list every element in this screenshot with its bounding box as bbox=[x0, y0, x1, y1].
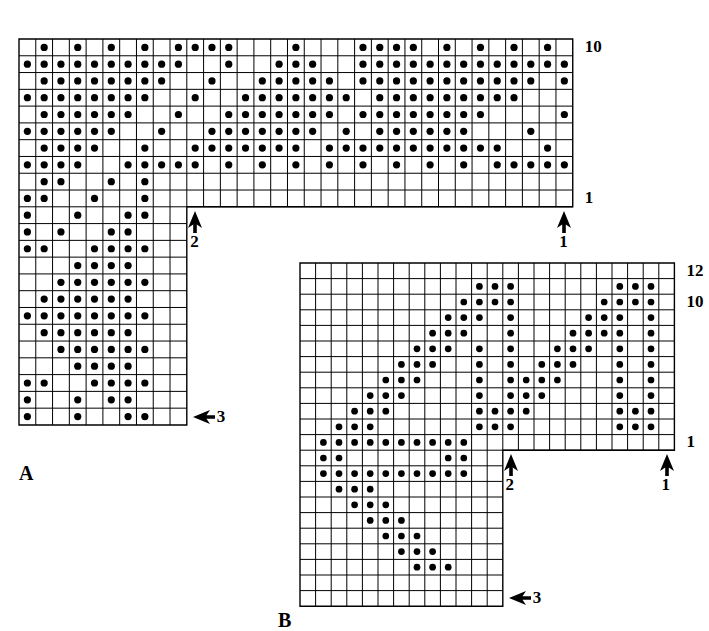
pattern-dot bbox=[225, 161, 232, 168]
pattern-dot bbox=[74, 363, 81, 370]
pattern-dot bbox=[429, 330, 436, 337]
pattern-dot bbox=[460, 77, 467, 84]
pattern-dot bbox=[124, 77, 131, 84]
pattern-dot bbox=[376, 61, 383, 68]
pattern-dot bbox=[192, 144, 199, 151]
pattern-dot bbox=[393, 161, 400, 168]
pattern-dot bbox=[141, 94, 148, 101]
pattern-dot bbox=[494, 144, 501, 151]
pattern-dot bbox=[292, 144, 299, 151]
pattern-dot bbox=[460, 128, 467, 135]
pattern-dot bbox=[24, 161, 31, 168]
pattern-dot bbox=[648, 283, 655, 290]
pattern-dot bbox=[445, 455, 452, 462]
pattern-dot bbox=[275, 77, 282, 84]
arrow-left-icon bbox=[193, 407, 215, 427]
pattern-dot bbox=[367, 470, 374, 477]
pattern-dot bbox=[398, 517, 405, 524]
pattern-dot bbox=[561, 61, 568, 68]
pattern-dot bbox=[616, 299, 623, 306]
pattern-dot bbox=[336, 455, 343, 462]
pattern-dot bbox=[367, 423, 374, 430]
pattern-dot bbox=[359, 144, 366, 151]
pattern-dot bbox=[74, 94, 81, 101]
pattern-dot bbox=[141, 379, 148, 386]
pattern-dot bbox=[632, 283, 639, 290]
pattern-dot bbox=[57, 295, 64, 302]
arrow-up-icon bbox=[501, 454, 521, 476]
marker-number-2: 2 bbox=[190, 233, 199, 250]
pattern-dot bbox=[477, 44, 484, 51]
pattern-dot bbox=[141, 77, 148, 84]
pattern-dot bbox=[24, 61, 31, 68]
pattern-dot bbox=[510, 61, 517, 68]
pattern-dot bbox=[510, 94, 517, 101]
pattern-dot bbox=[41, 94, 48, 101]
pattern-dot bbox=[398, 439, 405, 446]
pattern-dot bbox=[376, 94, 383, 101]
pattern-dot bbox=[91, 379, 98, 386]
pattern-dot bbox=[460, 299, 467, 306]
pattern-dot bbox=[24, 128, 31, 135]
pattern-dot bbox=[292, 94, 299, 101]
pattern-dot bbox=[141, 312, 148, 319]
pattern-dot bbox=[398, 470, 405, 477]
pattern-dot bbox=[359, 44, 366, 51]
pattern-dot bbox=[492, 423, 499, 430]
pattern-dot bbox=[460, 455, 467, 462]
pattern-dot bbox=[292, 128, 299, 135]
pattern-dot bbox=[414, 470, 421, 477]
pattern-dot bbox=[494, 94, 501, 101]
pattern-dot bbox=[648, 299, 655, 306]
pattern-dot bbox=[476, 423, 483, 430]
pattern-dot bbox=[57, 312, 64, 319]
pattern-dot bbox=[507, 345, 514, 352]
pattern-dot bbox=[108, 295, 115, 302]
pattern-dot bbox=[398, 548, 405, 555]
pattern-dot bbox=[24, 212, 31, 219]
pattern-dot bbox=[376, 77, 383, 84]
pattern-dot bbox=[275, 128, 282, 135]
pattern-dot bbox=[74, 77, 81, 84]
pattern-dot bbox=[24, 413, 31, 420]
chart-label-a: A bbox=[19, 463, 33, 483]
pattern-dot bbox=[382, 439, 389, 446]
pattern-dot bbox=[544, 161, 551, 168]
arrow-up-icon bbox=[554, 211, 574, 233]
pattern-dot bbox=[141, 195, 148, 202]
pattern-dot bbox=[158, 161, 165, 168]
pattern-dot bbox=[427, 77, 434, 84]
pattern-dot bbox=[429, 564, 436, 571]
pattern-dot bbox=[382, 533, 389, 540]
pattern-dot bbox=[443, 44, 450, 51]
pattern-dot bbox=[445, 470, 452, 477]
pattern-dot bbox=[443, 77, 450, 84]
pattern-dot bbox=[382, 377, 389, 384]
pattern-dot bbox=[414, 361, 421, 368]
pattern-dot bbox=[292, 44, 299, 51]
chart-label-b: B bbox=[278, 610, 291, 630]
pattern-dot bbox=[124, 329, 131, 336]
pattern-dot bbox=[320, 439, 327, 446]
pattern-dot bbox=[561, 77, 568, 84]
pattern-dot bbox=[41, 329, 48, 336]
pattern-dot bbox=[427, 161, 434, 168]
pattern-dot bbox=[398, 533, 405, 540]
pattern-dot bbox=[108, 346, 115, 353]
pattern-dot bbox=[24, 195, 31, 202]
pattern-dot bbox=[91, 312, 98, 319]
pattern-dot bbox=[124, 228, 131, 235]
pattern-dot bbox=[507, 423, 514, 430]
pattern-dot bbox=[91, 128, 98, 135]
pattern-dot bbox=[141, 178, 148, 185]
pattern-dot bbox=[108, 77, 115, 84]
pattern-dot bbox=[616, 330, 623, 337]
pattern-dot bbox=[460, 144, 467, 151]
pattern-dot bbox=[585, 345, 592, 352]
pattern-dot bbox=[91, 94, 98, 101]
pattern-dot bbox=[538, 377, 545, 384]
pattern-dot bbox=[74, 161, 81, 168]
pattern-dot bbox=[507, 377, 514, 384]
pattern-dot bbox=[351, 470, 358, 477]
pattern-dot bbox=[208, 128, 215, 135]
